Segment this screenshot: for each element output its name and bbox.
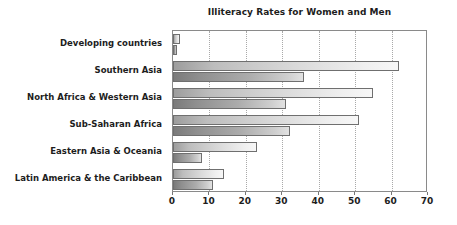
bar-male-2 <box>173 99 286 110</box>
bar-female-0 <box>173 34 180 45</box>
bar-female-1 <box>173 61 399 72</box>
x-tick-label-0: 0 <box>169 196 175 206</box>
category-axis-labels: Developing countriesSouthern AsiaNorth A… <box>0 30 167 192</box>
x-tick-50 <box>354 192 355 195</box>
x-tick-label-10: 10 <box>202 196 215 206</box>
bar-female-2 <box>173 88 373 99</box>
x-tick-20 <box>245 192 246 195</box>
category-label-4: Eastern Asia & Oceania <box>50 146 162 156</box>
x-tick-40 <box>318 192 319 195</box>
x-axis: 010203040506070 <box>172 192 427 214</box>
category-label-2: North Africa & Western Asia <box>27 92 162 102</box>
x-tick-label-70: 70 <box>421 196 434 206</box>
bar-female-3 <box>173 115 359 126</box>
bar-male-4 <box>173 153 202 164</box>
x-tick-label-60: 60 <box>384 196 397 206</box>
x-tick-label-40: 40 <box>311 196 324 206</box>
bar-male-1 <box>173 72 304 83</box>
category-label-1: Southern Asia <box>95 65 162 75</box>
category-label-5: Latin America & the Caribbean <box>15 173 162 183</box>
gridline-40 <box>319 31 320 191</box>
gridline-50 <box>355 31 356 191</box>
gridline-10 <box>209 31 210 191</box>
category-label-3: Sub-Saharan Africa <box>69 119 162 129</box>
category-label-0: Developing countries <box>60 38 162 48</box>
gridline-60 <box>392 31 393 191</box>
illiteracy-rates-bar-chart: Illiteracy Rates for Women and Men Devel… <box>0 0 457 225</box>
x-tick-0 <box>172 192 173 195</box>
gridline-20 <box>246 31 247 191</box>
x-tick-60 <box>391 192 392 195</box>
x-tick-30 <box>281 192 282 195</box>
gridline-30 <box>282 31 283 191</box>
x-tick-10 <box>208 192 209 195</box>
bar-male-3 <box>173 126 290 137</box>
bar-female-4 <box>173 142 257 153</box>
plot-area: Female Male <box>172 30 427 192</box>
x-tick-70 <box>427 192 428 195</box>
bar-male-5 <box>173 180 213 191</box>
x-tick-label-50: 50 <box>348 196 361 206</box>
bar-male-0 <box>173 45 177 56</box>
bar-female-5 <box>173 169 224 180</box>
x-tick-label-30: 30 <box>275 196 288 206</box>
chart-title: Illiteracy Rates for Women and Men <box>172 7 427 17</box>
x-tick-label-20: 20 <box>239 196 252 206</box>
